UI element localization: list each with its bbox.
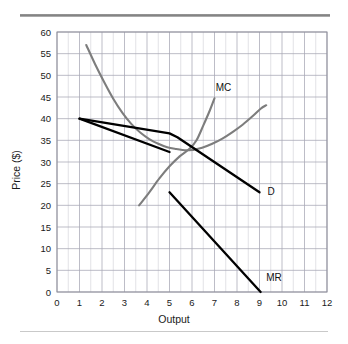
figure-container: MCDMR 0123456789101112 05101520253035404… xyxy=(0,0,348,344)
y-axis-tick-labels: 051015202530354045505560 xyxy=(40,27,51,298)
x-tick-6: 6 xyxy=(189,297,194,308)
y-tick-50: 50 xyxy=(40,70,51,81)
x-tick-0: 0 xyxy=(54,297,59,308)
x-tick-4: 4 xyxy=(144,297,149,308)
x-tick-12: 12 xyxy=(322,297,333,308)
economics-chart: MCDMR 0123456789101112 05101520253035404… xyxy=(0,0,348,344)
curve-label-mr: MR xyxy=(266,272,282,283)
y-tick-20: 20 xyxy=(40,200,51,211)
curve-mc-rising xyxy=(193,105,266,150)
x-tick-1: 1 xyxy=(77,297,82,308)
x-tick-10: 10 xyxy=(277,297,288,308)
curve-mr xyxy=(170,192,261,292)
y-tick-60: 60 xyxy=(40,27,51,38)
y-tick-35: 35 xyxy=(40,135,51,146)
x-tick-3: 3 xyxy=(122,297,127,308)
x-tick-9: 9 xyxy=(257,297,262,308)
y-tick-45: 45 xyxy=(40,92,51,103)
y-tick-40: 40 xyxy=(40,113,51,124)
y-tick-30: 30 xyxy=(40,157,51,168)
y-tick-5: 5 xyxy=(46,265,51,276)
y-axis-title: Price ($) xyxy=(10,150,22,190)
x-tick-7: 7 xyxy=(212,297,217,308)
y-tick-0: 0 xyxy=(46,287,51,298)
y-tick-15: 15 xyxy=(40,222,51,233)
curve-label-mc: MC xyxy=(216,82,232,93)
data-curves xyxy=(80,45,267,292)
x-tick-8: 8 xyxy=(234,297,239,308)
y-tick-25: 25 xyxy=(40,178,51,189)
curve-label-d: D xyxy=(267,186,274,197)
x-tick-5: 5 xyxy=(167,297,172,308)
x-axis-tick-labels: 0123456789101112 xyxy=(54,297,332,308)
x-tick-2: 2 xyxy=(99,297,104,308)
y-tick-55: 55 xyxy=(40,48,51,59)
x-tick-11: 11 xyxy=(300,297,310,308)
x-axis-title: Output xyxy=(158,313,190,325)
y-tick-10: 10 xyxy=(40,243,51,254)
